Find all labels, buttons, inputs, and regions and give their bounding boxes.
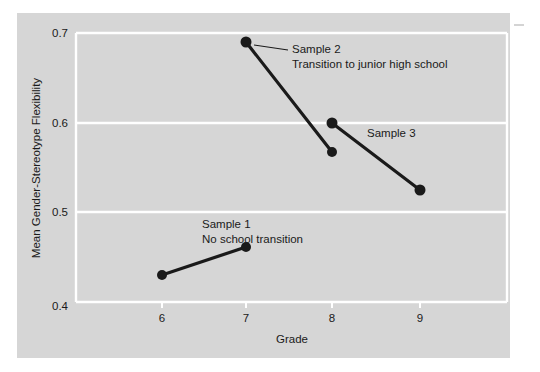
sample-1-sublabel: No school transition — [202, 233, 303, 245]
data-point-sample-3-grade-9 — [415, 185, 426, 196]
xtick-label-7: 7 — [243, 312, 249, 324]
y-axis-title: Mean Gender-Stereotype Flexibility — [30, 78, 42, 258]
figure-container: 0.7 0.6 0.5 0.4 6 7 8 9 Grade Mean Gende… — [0, 0, 540, 372]
line-chart: 0.7 0.6 0.5 0.4 6 7 8 9 Grade Mean Gende… — [0, 0, 540, 372]
xtick-label-6: 6 — [159, 312, 165, 324]
sample-2-label: Sample 2 — [292, 43, 341, 55]
xtick-label-8: 8 — [329, 312, 335, 324]
ytick-label-0.4: 0.4 — [52, 300, 69, 312]
ytick-label-0.5: 0.5 — [52, 206, 68, 218]
sample-3-label: Sample 3 — [367, 127, 416, 139]
x-axis-title: Grade — [276, 333, 308, 345]
ytick-label-0.7: 0.7 — [52, 27, 68, 39]
xtick-label-9: 9 — [417, 312, 423, 324]
sample-1-label: Sample 1 — [202, 218, 251, 230]
sample-2-sublabel: Transition to junior high school — [292, 58, 448, 70]
data-point-sample-1-grade-6 — [157, 270, 167, 280]
ytick-label-0.6: 0.6 — [52, 117, 68, 129]
data-point-sample-3-grade-8 — [327, 118, 338, 129]
data-point-sample-2-grade-8 — [327, 147, 337, 157]
data-point-sample-2-grade-7 — [241, 37, 252, 48]
